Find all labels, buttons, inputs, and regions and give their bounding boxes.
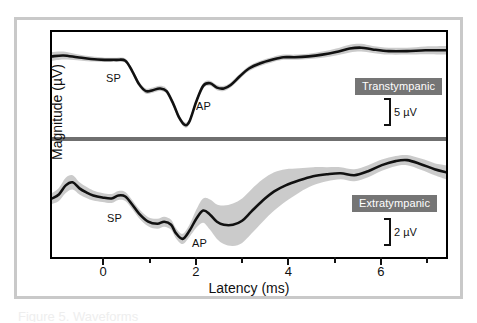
plot-area: SP AP SP AP Transtympanic 5 µV Extratymp…	[50, 30, 448, 259]
condition-badge-transtympanic: Transtympanic	[355, 78, 442, 95]
peak-label-sp-transtympanic: SP	[106, 72, 121, 84]
x-tick-label: 4	[285, 264, 292, 279]
peak-label-ap-extratympanic: AP	[192, 237, 207, 249]
peak-label-sp-extratympanic: SP	[107, 212, 122, 224]
peak-label-ap-transtympanic: AP	[196, 100, 211, 112]
x-tick-minor	[334, 257, 336, 263]
x-tick-label: 2	[192, 264, 199, 279]
scale-bar-value-extratympanic: 2 µV	[394, 226, 417, 238]
panel-divider	[52, 137, 446, 141]
x-tick-label: 6	[377, 264, 384, 279]
x-tick-label: 0	[100, 264, 107, 279]
scale-bar-transtympanic: 5 µV	[384, 98, 417, 126]
scale-bracket-icon	[384, 98, 391, 126]
figure-caption-fragment: Figure 5. Waveforms	[18, 309, 458, 322]
scale-bracket-icon	[384, 218, 391, 246]
x-axis-label: Latency (ms)	[50, 280, 448, 296]
x-tick-minor	[149, 257, 151, 263]
condition-badge-extratympanic: Extratympanic	[352, 195, 437, 212]
figure-root: SP AP SP AP Transtympanic 5 µV Extratymp…	[0, 0, 477, 323]
x-tick-minor	[426, 257, 428, 263]
x-axis-tick-labels: 0246	[50, 264, 448, 280]
scale-bar-extratympanic: 2 µV	[384, 218, 417, 246]
y-axis-label: Magnitude (µV)	[49, 17, 65, 207]
x-tick-minor	[241, 257, 243, 263]
scale-bar-value-transtympanic: 5 µV	[394, 106, 417, 118]
